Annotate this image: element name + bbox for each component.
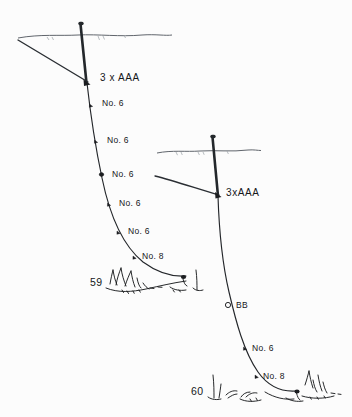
shot-label-no8: No. 8	[263, 371, 285, 381]
bulk-shot-label-left: 3 x AAA	[100, 72, 140, 83]
mainline-left	[87, 83, 186, 276]
rod-line-left	[18, 40, 88, 82]
shot-label-no6: No. 6	[112, 169, 134, 179]
shot-label-no6: No. 6	[102, 98, 124, 108]
figure-number-59: 59	[90, 276, 103, 288]
shot-label-bb: BB	[236, 300, 248, 310]
shot-label-no6: No. 6	[107, 135, 129, 145]
figure-number-60: 60	[191, 385, 204, 397]
bulk-shot-label-right: 3xAAA	[226, 187, 260, 198]
shot-label-no6: No. 6	[252, 343, 274, 353]
dropper-shots-left	[89, 104, 136, 259]
rod-line-right	[155, 176, 219, 195]
mainline-right	[218, 196, 296, 391]
waterline-right	[157, 150, 261, 155]
shot-label-no8: No. 8	[142, 251, 164, 261]
riverbed-weed-icon	[106, 268, 203, 294]
drawing-canvas: 3 x AAA No. 6 No. 6 No. 6 No. 6 No. 6 No…	[0, 0, 352, 417]
float-antenna-left	[80, 24, 87, 84]
shot-label-no6: No. 6	[119, 198, 141, 208]
bb-shot-open-icon	[225, 302, 230, 307]
float-antenna-right	[212, 137, 218, 197]
shot-label-no6: No. 6	[128, 226, 150, 236]
waterline-left	[18, 35, 172, 40]
rig-diagram-svg	[0, 0, 352, 417]
